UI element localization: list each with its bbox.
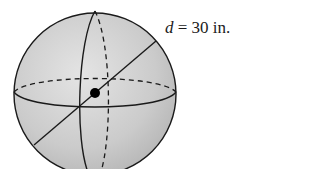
diameter-variable: d — [165, 18, 174, 37]
center-point — [90, 88, 100, 98]
diameter-unit: in. — [209, 18, 231, 37]
equals-sign: = — [174, 18, 192, 37]
diameter-label: d = 30 in. — [165, 18, 230, 38]
diameter-value: 30 — [192, 18, 209, 37]
